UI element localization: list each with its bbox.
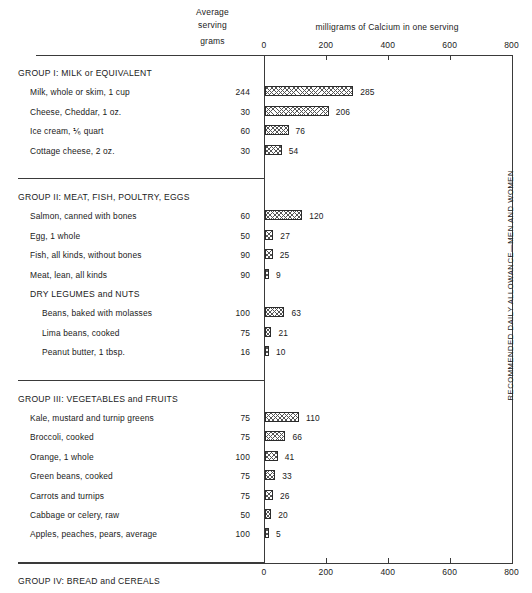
group-separator xyxy=(18,562,265,563)
item-grams: 75 xyxy=(190,432,250,442)
value-bar xyxy=(265,490,273,500)
bar-value-label: 206 xyxy=(336,107,350,117)
daily-allowance-label: RECOMMENDED DAILY ALLOWANCE—MEN AND WOME… xyxy=(506,170,515,400)
axis-line-top xyxy=(36,55,513,56)
item-label: Milk, whole or skim, 1 cup xyxy=(30,87,130,97)
axis-tick xyxy=(450,55,451,60)
item-label: Cheese, Cheddar, 1 oz. xyxy=(30,107,121,117)
value-bar xyxy=(265,451,278,461)
item-grams: 30 xyxy=(190,146,250,156)
value-bar xyxy=(265,145,282,155)
item-grams: 90 xyxy=(190,270,250,280)
grams-header: grams xyxy=(175,36,250,46)
item-grams: 16 xyxy=(190,347,250,357)
bar-value-label: 21 xyxy=(278,328,288,338)
item-grams: 60 xyxy=(190,126,250,136)
item-grams: 75 xyxy=(190,413,250,423)
axis-tick xyxy=(388,558,389,563)
item-label: Carrots and turnips xyxy=(30,491,104,501)
group-title: GROUP III: VEGETABLES and FRUITS xyxy=(18,394,178,404)
value-bar xyxy=(265,307,284,317)
axis-tick xyxy=(326,558,327,563)
item-label: Lima beans, cooked xyxy=(42,328,120,338)
value-bar xyxy=(265,210,302,220)
average-serving-header: Average serving xyxy=(175,6,250,31)
item-label: Salmon, canned with bones xyxy=(30,211,137,221)
bar-value-label: 41 xyxy=(285,452,295,462)
item-label: Apples, peaches, pears, average xyxy=(30,529,157,539)
axis-title: milligrams of Calcium in one serving xyxy=(264,22,510,32)
item-label: Green beans, cooked xyxy=(30,471,113,481)
item-grams: 50 xyxy=(190,231,250,241)
axis-tick-label: 200 xyxy=(306,567,346,577)
axis-tick-label: 800 xyxy=(492,40,532,50)
group-separator xyxy=(18,178,265,179)
item-grams: 244 xyxy=(190,87,250,97)
value-bar xyxy=(265,230,273,240)
item-label: Broccoli, cooked xyxy=(30,432,94,442)
group-title: GROUP II: MEAT, FISH, POULTRY, EGGS xyxy=(18,192,190,202)
value-bar xyxy=(265,86,353,96)
item-grams: 30 xyxy=(190,107,250,117)
axis-tick-label: 0 xyxy=(244,567,284,577)
average-serving-line1: Average xyxy=(175,6,250,19)
axis-tick xyxy=(450,558,451,563)
item-label: Beans, baked with molasses xyxy=(42,308,152,318)
item-grams: 100 xyxy=(190,529,250,539)
item-grams: 100 xyxy=(190,452,250,462)
item-label: Ice cream, ⅙ quart xyxy=(30,126,104,136)
bar-value-label: 10 xyxy=(276,347,286,357)
item-label: Peanut butter, 1 tbsp. xyxy=(42,347,125,357)
value-bar xyxy=(265,327,271,337)
bar-value-label: 54 xyxy=(289,146,299,156)
bar-value-label: 33 xyxy=(282,471,292,481)
axis-tick xyxy=(326,55,327,60)
bar-value-label: 66 xyxy=(292,432,302,442)
axis-tick xyxy=(388,55,389,60)
axis-tick-label: 200 xyxy=(306,40,346,50)
bar-value-label: 25 xyxy=(280,250,290,260)
item-grams: 100 xyxy=(190,308,250,318)
bar-value-label: 27 xyxy=(280,231,290,241)
value-bar xyxy=(265,412,299,422)
value-bar xyxy=(265,106,329,116)
value-bar xyxy=(265,249,273,259)
group-separator xyxy=(18,380,265,381)
axis-tick-label: 400 xyxy=(368,567,408,577)
subgroup-title: DRY LEGUMES and NUTS xyxy=(30,289,140,299)
item-grams: 50 xyxy=(190,510,250,520)
group-title: GROUP IV: BREAD and CEREALS xyxy=(18,576,160,586)
bar-value-label: 5 xyxy=(276,529,281,539)
value-bar xyxy=(265,269,269,279)
bar-value-label: 120 xyxy=(309,211,323,221)
bar-value-label: 20 xyxy=(278,510,288,520)
bar-value-label: 76 xyxy=(296,126,306,136)
axis-tick xyxy=(512,55,513,60)
value-bar xyxy=(265,346,269,356)
axis-line-bottom xyxy=(18,563,513,564)
average-serving-line2: serving xyxy=(175,19,250,32)
item-label: Fish, all kinds, without bones xyxy=(30,250,142,260)
item-grams: 75 xyxy=(190,491,250,501)
bar-value-label: 110 xyxy=(306,413,320,423)
axis-tick-label: 0 xyxy=(244,40,284,50)
value-bar xyxy=(265,528,269,538)
bar-value-label: 63 xyxy=(291,308,301,318)
item-label: Meat, lean, all kinds xyxy=(30,270,107,280)
item-label: Egg, 1 whole xyxy=(30,231,80,241)
axis-tick-label: 600 xyxy=(430,567,470,577)
axis-tick xyxy=(264,55,265,60)
item-label: Cottage cheese, 2 oz. xyxy=(30,146,115,156)
axis-tick xyxy=(512,558,513,563)
value-bar xyxy=(265,431,285,441)
value-bar xyxy=(265,125,289,135)
value-bar xyxy=(265,470,275,480)
item-label: Cabbage or celery, raw xyxy=(30,510,119,520)
item-grams: 90 xyxy=(190,250,250,260)
bar-value-label: 285 xyxy=(360,87,374,97)
axis-tick-label: 600 xyxy=(430,40,470,50)
item-label: Kale, mustard and turnip greens xyxy=(30,413,154,423)
item-label: Orange, 1 whole xyxy=(30,452,94,462)
bar-value-label: 26 xyxy=(280,491,290,501)
bar-value-label: 9 xyxy=(276,270,281,280)
